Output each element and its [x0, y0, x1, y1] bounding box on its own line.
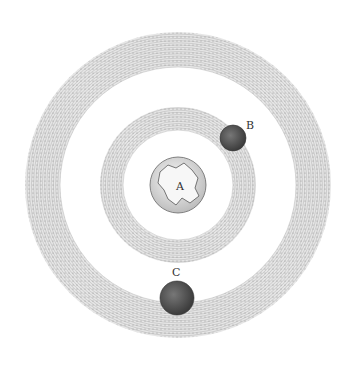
label-c: C	[172, 266, 180, 279]
label-a: A	[175, 180, 185, 193]
planet-c: C	[160, 266, 194, 315]
orbit-diagram: A BC	[0, 0, 356, 369]
globe-a: A	[150, 157, 206, 213]
label-b: B	[246, 119, 254, 132]
